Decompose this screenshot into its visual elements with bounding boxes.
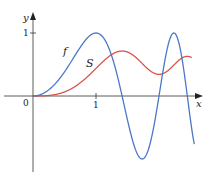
origin-label: 0 — [23, 98, 29, 108]
y-axis-arrow-icon — [30, 12, 36, 20]
y-tick-label-1: 1 — [23, 28, 29, 38]
series-label-f: f — [62, 45, 69, 58]
series-label-S: S — [86, 57, 94, 70]
x-axis-label: x — [196, 98, 202, 109]
y-axis-label: y — [22, 12, 29, 23]
fresnel-chart: y x 0 1 1 f S — [0, 0, 211, 177]
x-tick-label-1: 1 — [93, 100, 99, 110]
